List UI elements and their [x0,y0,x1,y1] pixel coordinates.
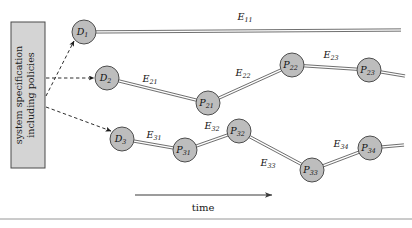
node-P33[interactable]: P33 [300,158,324,182]
edge-E24 [381,71,406,77]
process-timeline-diagram: D1D2D3P21P22P23P31P32P33P34 E11E21E22E23… [0,0,412,228]
edge-label-E11: E11 [236,11,252,24]
edge-label-E33: E33 [259,157,275,170]
time-axis: time [135,195,272,213]
edge-E34 [323,151,359,167]
nodes-layer: D1D2D3P21P22P23P31P32P33P34 [72,20,382,182]
edge-E23 [304,65,357,71]
edge-E11 [96,29,401,33]
edge-label-E34: E34 [332,138,348,151]
node-P34[interactable]: P34 [358,136,382,160]
node-P23[interactable]: P23 [357,58,381,82]
node-D2[interactable]: D2 [95,66,119,90]
spec-box[interactable]: system specification including policies [11,22,45,168]
node-P21[interactable]: P21 [196,91,220,115]
edge-label-E23: E23 [322,49,338,62]
dashed-arrow-spec-to-D3 [46,107,111,131]
edge-label-E21: E21 [141,73,157,86]
edge-label-E22: E22 [234,67,250,80]
edge-label-E32: E32 [203,120,219,133]
node-P32[interactable]: P32 [227,119,251,143]
node-P31[interactable]: P31 [173,138,197,162]
node-P22[interactable]: P22 [280,53,304,77]
dashed-arrow-spec-to-D1 [46,41,74,96]
spec-box-line2: including policies [25,52,36,138]
edge-E35 [382,144,404,148]
node-D1[interactable]: D1 [72,20,96,44]
edge-E33 [249,136,302,166]
node-D3[interactable]: D3 [110,127,134,151]
edge-E32 [196,134,228,147]
time-axis-label: time [192,202,215,213]
figure-canvas: D1D2D3P21P22P23P31P32P33P34 E11E21E22E23… [0,0,412,228]
edge-label-E31: E31 [145,129,161,142]
spec-box-line1: system specification [13,46,24,145]
